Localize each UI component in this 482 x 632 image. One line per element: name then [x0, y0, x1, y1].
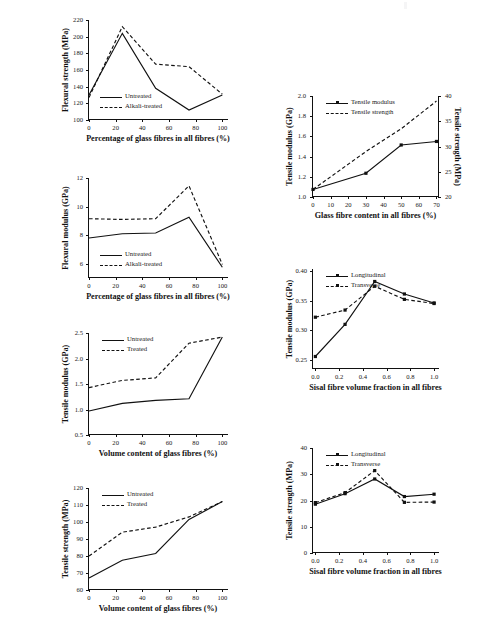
x-tick-label: 20 [112, 595, 119, 602]
legend-entry: Alkali-treated [100, 260, 162, 269]
x-axis-title: Sisal fibre volume fraction in all fibre… [309, 568, 441, 576]
x-tick-label: 0.0 [311, 374, 319, 381]
x-tick-label: 60 [166, 125, 173, 132]
legend-flexural-strength-glass: UntreatedAlkali-treated [100, 92, 162, 112]
x-tick-label: 80 [192, 440, 199, 447]
data-point-marker [343, 308, 346, 311]
x-tick-label: 0 [87, 283, 90, 290]
legend-entry: Transverse [326, 460, 386, 469]
x-tick-label: 40 [139, 595, 146, 602]
y-tick-label: 0.35 [295, 297, 307, 304]
x-tick-label: 20 [345, 202, 352, 209]
legend-marker-icon [336, 463, 339, 466]
y-tick-label: 120 [73, 485, 83, 492]
legend-marker-icon [336, 274, 339, 277]
x-tick-label: 40 [380, 202, 387, 209]
legend-line-icon [100, 255, 122, 256]
x-tick-label: 20 [112, 440, 119, 447]
y-tick-label: 0.40 [295, 267, 307, 274]
x-axis-title: Sisal fibre volume fraction in all fibre… [309, 384, 441, 392]
y-tick-label: 30 [300, 471, 307, 478]
legend-entry: Treated [102, 345, 153, 354]
x-tick-label: 0 [311, 202, 314, 209]
chart-flexural-strength-glass: 100120140160180200220020406080100Untreat… [55, 14, 235, 142]
chart-tensile-modulus-glass-volume: 0.51.01.52.02.5020406080100UntreatedTrea… [55, 327, 235, 457]
x-tick-label: 0.4 [359, 374, 367, 381]
legend-flexural-modulus-glass: UntreatedAlkali-treated [100, 250, 162, 270]
x-tick-label: 0.0 [311, 558, 319, 565]
series-line-longitudinal [315, 282, 434, 357]
y-tick-label: 2.0 [75, 355, 83, 362]
y-tick-label: 70 [76, 570, 83, 577]
x-axis-title: Percentage of glass fibres in all fibres… [86, 293, 230, 301]
x-tick-label: 60 [166, 283, 173, 290]
legend-key-solid-icon [326, 98, 348, 107]
legend-key-solid-icon [100, 92, 122, 101]
legend-entry: Treated [102, 500, 153, 509]
legend-label: Untreated [125, 93, 151, 100]
data-point-marker [364, 172, 367, 175]
x-tick-label: 60 [166, 595, 173, 602]
legend-line-icon [102, 495, 124, 496]
y-tick-label: 1.8 [298, 113, 306, 120]
y2-tick-label: 40 [445, 93, 452, 100]
legend-line-icon [102, 505, 124, 506]
legend-key-dashed-icon [102, 500, 124, 509]
legend-key-solid-icon [102, 490, 124, 499]
legend-tensile-modulus-sisal-fraction: LongitudinalTransverse [326, 271, 386, 291]
y-tick [310, 553, 313, 554]
figure-page: 100120140160180200220020406080100Untreat… [0, 0, 482, 632]
y-axis-title: Tensile modulus (GPa) [62, 333, 70, 435]
legend-entry: Untreated [102, 490, 153, 499]
y-tick-label: 60 [76, 587, 83, 594]
legend-entry: Untreated [102, 335, 153, 344]
x-tick-label: 0.4 [359, 558, 367, 565]
y-tick-label: 1.6 [298, 133, 306, 140]
y-tick-label: 1.0 [75, 406, 83, 413]
series-line-untreated [89, 502, 222, 578]
legend-tensile-modulus-strength-glass-content: Tensile modulusTensile strength [326, 98, 395, 118]
legend-tensile-strength-glass-volume: UntreatedTreated [102, 490, 153, 510]
y-tick-label: 0.30 [295, 327, 307, 334]
y-axis-title: Tensile strength (MPa) [62, 488, 70, 590]
data-point-marker [373, 477, 376, 480]
x-tick-label: 100 [217, 125, 227, 132]
data-point-marker [435, 140, 438, 143]
y-tick-label: 90 [76, 536, 83, 543]
data-point-marker [432, 500, 435, 503]
legend-line-icon [326, 113, 348, 114]
x-tick-label: 20 [112, 283, 119, 290]
y2-tick-label: 30 [445, 143, 452, 150]
legend-entry: Alkali-treated [100, 102, 162, 111]
y-tick-label: 10 [76, 203, 83, 210]
y-tick-label: 0 [304, 550, 307, 557]
legend-key-dashed-icon [100, 102, 122, 111]
legend-label: Treated [127, 346, 147, 353]
y-tick-label: 160 [73, 67, 83, 74]
legend-label: Alkali-treated [125, 103, 162, 110]
x-tick-label: 0.6 [382, 558, 390, 565]
y-tick-label: 220 [73, 17, 83, 24]
y-tick-label: 110 [73, 502, 83, 509]
y-tick-label: 2.5 [75, 330, 83, 337]
x-tick-label: 80 [192, 125, 199, 132]
data-point-marker [403, 292, 406, 295]
legend-entry: Untreated [100, 250, 162, 259]
x-tick-label: 0.6 [382, 374, 390, 381]
data-point-marker [314, 355, 317, 358]
legend-label: Untreated [127, 336, 153, 343]
legend-marker-icon [336, 284, 339, 287]
data-point-marker [403, 495, 406, 498]
legend-label: Transverse [351, 282, 380, 289]
x-tick-label: 60 [166, 440, 173, 447]
legend-entry: Tensile modulus [326, 98, 395, 107]
legend-key-dashed-icon [326, 108, 348, 117]
legend-entry: Transverse [326, 281, 386, 290]
x-tick-label: 0 [87, 595, 90, 602]
legend-label: Treated [127, 501, 147, 508]
data-point-marker [432, 493, 435, 496]
chart-tensile-strength-glass-volume: 60708090100110120020406080100UntreatedTr… [55, 482, 235, 612]
y-tick-label: 1.4 [298, 153, 306, 160]
x-tick-label: 100 [217, 283, 227, 290]
x-tick-label: 60 [416, 202, 423, 209]
